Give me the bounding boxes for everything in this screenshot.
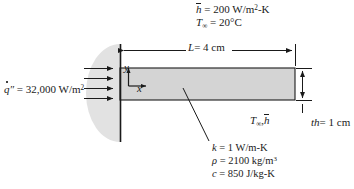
length-label: L= 4 cm <box>188 41 225 54</box>
h-coefficient-line: h = 200 W/m2-K <box>196 3 269 16</box>
length-value: = 4 cm <box>194 41 225 53</box>
heat-flux-label: q″ = 32,000 W/m2 <box>4 83 84 96</box>
h-units-tail: -K <box>258 3 270 15</box>
rho-units-exponent: 3 <box>273 155 276 162</box>
c-value: = 850 J/kg-K <box>219 168 275 179</box>
density-line: ρ = 2100 kg/m3 <box>212 155 277 168</box>
q-dot-symbol: q <box>4 83 10 96</box>
surface-h-bar-symbol: h <box>264 114 270 127</box>
k-value: = 1 W/m-K <box>219 142 267 153</box>
surface-convection-label: T∞,h <box>250 114 270 129</box>
rho-symbol: ρ <box>212 155 217 166</box>
heat-flux-units-exponent: 2 <box>81 84 85 92</box>
heat-source-blob <box>86 44 120 142</box>
convection-condition-label: h = 200 W/m2-K T∞ = 20°C <box>196 3 269 31</box>
h-bar-symbol: h <box>196 3 202 16</box>
fin-body <box>120 68 295 100</box>
specific-heat-line: c = 850 J/kg-K <box>212 168 277 181</box>
c-symbol: c <box>212 168 217 179</box>
thickness-symbol: th <box>311 116 320 128</box>
q-double-prime: ″ <box>10 83 15 95</box>
h-coefficient-value: = 200 W/m <box>204 3 254 15</box>
heat-flux-value: = 32,000 W/m <box>17 83 81 95</box>
thickness-value: = 1 cm <box>320 116 351 128</box>
conductivity-line: k = 1 W/m-K <box>212 142 277 155</box>
thickness-label: th= 1 cm <box>311 116 350 129</box>
y-axis-label: y <box>124 61 129 74</box>
t-infinity-subscript: ∞ <box>202 22 207 30</box>
ambient-temperature-value: = 20°C <box>210 16 242 28</box>
k-symbol: k <box>212 142 217 153</box>
x-axis-label: x <box>137 82 142 95</box>
material-properties-label: k = 1 W/m-K ρ = 2100 kg/m3 c = 850 J/kg-… <box>212 142 277 180</box>
heat-transfer-diagram: h = 200 W/m2-K T∞ = 20°C q″ = 32,000 W/m… <box>0 0 354 189</box>
ambient-temperature-line: T∞ = 20°C <box>196 16 269 31</box>
thickness-dimension <box>296 69 312 114</box>
rho-value: = 2100 kg/m <box>220 155 274 166</box>
